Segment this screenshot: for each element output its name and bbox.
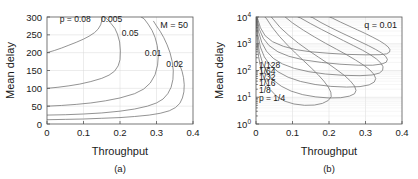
- x-tick-label: 0.4: [395, 127, 408, 138]
- x-tick-label: 0: [253, 127, 258, 138]
- panel-caption: (b): [323, 163, 335, 174]
- y-tick-label: 200: [26, 47, 42, 58]
- curve-label: p = 1/4: [259, 93, 286, 103]
- curve-label: 0.01: [145, 48, 162, 58]
- y-tick-label: 150: [26, 65, 42, 76]
- gridlines: [47, 17, 193, 124]
- x-tick-label: 0.1: [286, 127, 299, 138]
- x-tick-label: 0.3: [359, 127, 372, 138]
- y-tick-label: 50: [31, 101, 42, 112]
- y-tick-label: 250: [26, 29, 42, 40]
- figure-container: 00.10.20.30.4050100150200250300p = 0.080…: [0, 0, 418, 179]
- curve-label: p = 0.08: [60, 14, 91, 24]
- data-curve: [47, 17, 158, 106]
- chart-b-svg: 00.10.20.30.41001011021031041/1281/641/3…: [209, 0, 418, 179]
- y-axis-title: Mean delay: [4, 42, 16, 99]
- x-tick-label: 0.2: [322, 127, 335, 138]
- y-tick-label: 300: [26, 12, 42, 23]
- x-tick-label: 0.3: [150, 127, 163, 138]
- curve-label: 0.05: [122, 28, 139, 38]
- panel-annotation: q = 0.01: [364, 20, 397, 30]
- chart-panel-a: 00.10.20.30.4050100150200250300p = 0.080…: [0, 0, 209, 179]
- chart-a-svg: 00.10.20.30.4050100150200250300p = 0.080…: [0, 0, 209, 179]
- chart-panel-b: 00.10.20.30.41001011021031041/1281/641/3…: [209, 0, 418, 179]
- panel-caption: (a): [114, 163, 126, 174]
- y-axis-title: Mean delay: [213, 42, 225, 99]
- x-tick-label: 0.1: [77, 127, 90, 138]
- y-tick-label: 100: [26, 83, 42, 94]
- x-tick-label: 0.4: [186, 127, 199, 138]
- curve-group: [47, 17, 184, 120]
- panel-annotation: M = 50: [160, 20, 188, 30]
- y-tick-label: 0: [37, 119, 42, 130]
- x-tick-label: 0: [44, 127, 49, 138]
- x-tick-label: 0.2: [113, 127, 126, 138]
- curve-label: 0.02: [166, 59, 183, 69]
- x-axis-title: Throughput: [301, 145, 357, 157]
- x-axis-title: Throughput: [92, 145, 148, 157]
- curve-label: 0.005: [101, 14, 123, 24]
